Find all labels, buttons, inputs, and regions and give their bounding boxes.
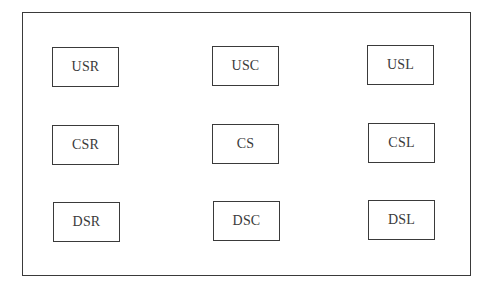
area-label: DSR [73,214,101,230]
area-usr: USR [52,47,119,87]
area-csr: CSR [52,125,119,165]
area-label: CSR [72,137,99,153]
area-dsc: DSC [213,201,280,241]
area-cs: CS [212,124,279,164]
area-label: DSC [233,213,261,229]
area-usl: USL [367,45,434,85]
area-label: USC [232,58,260,74]
area-label: CSL [388,135,414,151]
area-usc: USC [212,46,279,86]
area-label: USR [72,59,100,75]
area-label: CS [237,136,255,152]
area-label: DSL [388,212,415,228]
area-csl: CSL [368,123,435,163]
area-dsr: DSR [53,202,120,242]
area-dsl: DSL [368,200,435,240]
area-label: USL [387,57,414,73]
